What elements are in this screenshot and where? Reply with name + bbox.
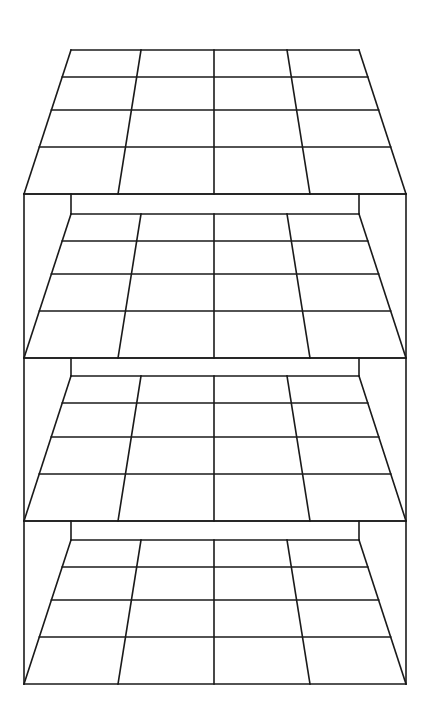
grid-column-line	[287, 50, 310, 194]
grid-column-line	[287, 540, 310, 684]
grid-column-line	[118, 540, 141, 684]
grid-column-line	[359, 376, 406, 521]
board-4	[24, 521, 406, 684]
grid-column-line	[359, 214, 406, 358]
grid-column-line	[359, 540, 406, 684]
grid-column-line	[24, 50, 71, 194]
board-2	[24, 194, 406, 358]
grid-column-line	[24, 214, 71, 358]
board-3	[24, 358, 406, 521]
grid-column-line	[118, 214, 141, 358]
grid-column-line	[24, 376, 71, 521]
diagram-canvas	[0, 0, 448, 719]
grid-column-line	[287, 214, 310, 358]
grid-column-line	[118, 376, 141, 521]
stacked-grid-boards	[0, 0, 448, 719]
grid-column-line	[359, 50, 406, 194]
board-1	[24, 50, 406, 194]
grid-column-line	[118, 50, 141, 194]
grid-column-line	[287, 376, 310, 521]
grid-column-line	[24, 540, 71, 684]
